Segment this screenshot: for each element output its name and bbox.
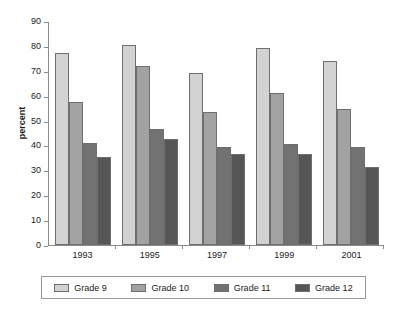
legend-label: Grade 11 bbox=[234, 283, 271, 293]
bar-grade-10-2001 bbox=[337, 109, 351, 245]
legend-swatch-icon bbox=[214, 284, 229, 292]
y-tick-mark bbox=[44, 122, 48, 123]
bar-grade-9-2001 bbox=[323, 61, 337, 245]
x-tick-mark bbox=[249, 245, 250, 249]
legend-item-grade-12[interactable]: Grade 12 bbox=[295, 283, 353, 293]
bar-group bbox=[317, 22, 384, 245]
y-tick-label: 40 bbox=[31, 140, 41, 150]
y-tick-label: 30 bbox=[31, 165, 41, 175]
x-axis-label-1993: 1993 bbox=[49, 250, 116, 260]
bar-grade-10-1997 bbox=[203, 112, 217, 245]
legend-label: Grade 10 bbox=[151, 283, 189, 293]
legend-swatch-icon bbox=[131, 284, 146, 292]
bar-grade-10-1999 bbox=[270, 93, 284, 245]
bar-grade-11-1995 bbox=[150, 129, 164, 245]
y-tick-label: 10 bbox=[31, 215, 41, 225]
y-tick-mark bbox=[44, 196, 48, 197]
bar-groups bbox=[49, 22, 384, 245]
y-tick-mark bbox=[44, 72, 48, 73]
x-tick-mark bbox=[115, 245, 116, 249]
bar-grade-9-1999 bbox=[256, 48, 270, 245]
y-tick-mark bbox=[44, 22, 48, 23]
x-tick-mark bbox=[383, 245, 384, 249]
y-tick-label: 20 bbox=[31, 190, 41, 200]
legend-swatch-icon bbox=[295, 284, 310, 292]
y-tick-label: 60 bbox=[31, 91, 41, 101]
bar-group bbox=[183, 22, 250, 245]
bar-grade-12-1999 bbox=[298, 154, 312, 245]
y-axis-title: percent bbox=[17, 93, 27, 153]
x-axis-label-1995: 1995 bbox=[116, 250, 183, 260]
x-axis-label-2001: 2001 bbox=[318, 250, 385, 260]
bar-grade-11-1997 bbox=[217, 147, 231, 245]
x-tick-mark bbox=[182, 245, 183, 249]
y-tick-label: 50 bbox=[31, 116, 41, 126]
legend-label: Grade 9 bbox=[74, 283, 107, 293]
y-tick-label: 70 bbox=[31, 66, 41, 76]
bar-chart: percent 9080706050403020100 199319951997… bbox=[0, 0, 407, 313]
plot-area: 9080706050403020100 bbox=[48, 22, 384, 246]
bar-grade-10-1995 bbox=[136, 66, 150, 245]
y-tick-mark bbox=[44, 221, 48, 222]
bar-grade-9-1993 bbox=[55, 53, 69, 245]
bar-grade-12-1993 bbox=[97, 157, 111, 245]
bar-grade-12-1997 bbox=[231, 154, 245, 245]
bar-grade-11-2001 bbox=[351, 147, 365, 245]
x-tick-mark bbox=[316, 245, 317, 249]
bar-grade-12-2001 bbox=[365, 167, 379, 245]
legend-item-grade-9[interactable]: Grade 9 bbox=[54, 283, 107, 293]
bar-grade-9-1997 bbox=[189, 73, 203, 245]
y-tick-label: 0 bbox=[36, 240, 41, 250]
y-tick-mark bbox=[44, 146, 48, 147]
legend-item-grade-11[interactable]: Grade 11 bbox=[214, 283, 271, 293]
x-axis-line bbox=[48, 245, 384, 246]
bar-grade-9-1995 bbox=[122, 45, 136, 245]
x-axis-label-1997: 1997 bbox=[183, 250, 250, 260]
bar-grade-11-1999 bbox=[284, 144, 298, 245]
y-tick-mark bbox=[44, 97, 48, 98]
y-tick-label: 90 bbox=[31, 16, 41, 26]
x-axis-labels: 19931995199719992001 bbox=[49, 250, 385, 260]
bar-grade-10-1993 bbox=[69, 102, 83, 245]
y-tick-label: 80 bbox=[31, 41, 41, 51]
legend-item-grade-10[interactable]: Grade 10 bbox=[131, 283, 189, 293]
y-tick-mark bbox=[44, 171, 48, 172]
x-axis-label-1999: 1999 bbox=[251, 250, 318, 260]
chart-legend: Grade 9Grade 10Grade 11Grade 12 bbox=[41, 276, 366, 299]
bar-group bbox=[49, 22, 116, 245]
legend-label: Grade 12 bbox=[315, 283, 353, 293]
y-tick-mark bbox=[44, 246, 48, 247]
bar-grade-11-1993 bbox=[83, 143, 97, 245]
y-tick-mark bbox=[44, 47, 48, 48]
bar-grade-12-1995 bbox=[164, 139, 178, 245]
legend-swatch-icon bbox=[54, 284, 69, 292]
bar-group bbox=[116, 22, 183, 245]
bar-group bbox=[250, 22, 317, 245]
